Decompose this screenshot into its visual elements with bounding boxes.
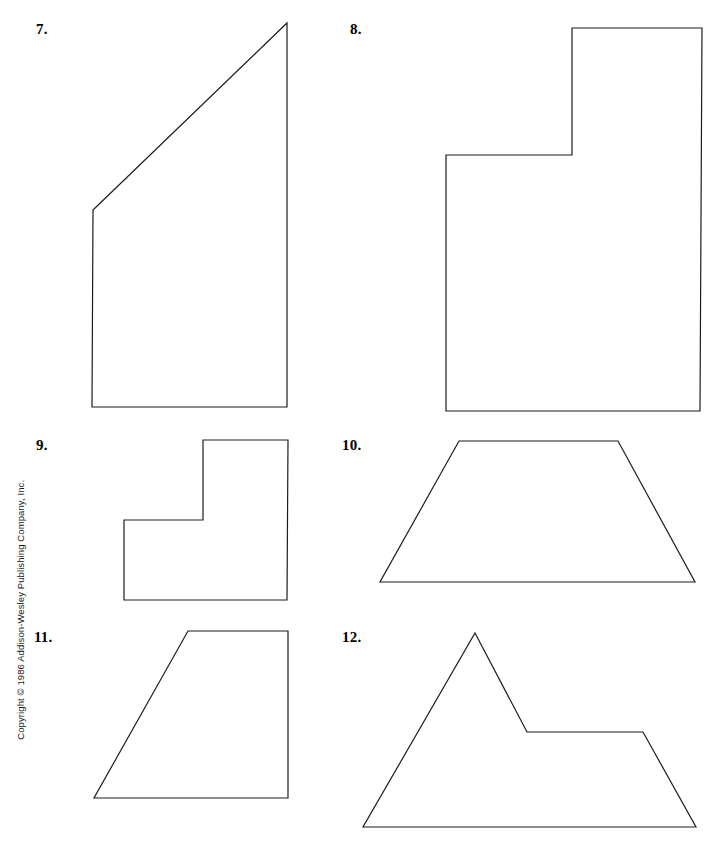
copyright-notice: Copyright © 1986 Addison-Wesley Publishi…: [16, 430, 26, 740]
figures-canvas: [0, 0, 713, 844]
figure-shape-10: [380, 441, 695, 582]
figure-number-9: 9.: [36, 438, 48, 453]
figure-shape-12: [363, 633, 696, 827]
figure-number-10: 10.: [342, 438, 361, 453]
figure-number-11: 11.: [34, 630, 53, 645]
worksheet-page: 7. 8. 9. 10. 11. 12. Copyright © 1986 Ad…: [0, 0, 713, 844]
figure-shape-7: [92, 23, 287, 407]
figure-shape-8: [446, 28, 702, 411]
figure-number-8: 8.: [350, 22, 362, 37]
figure-shape-11: [94, 631, 288, 798]
figure-number-7: 7.: [36, 22, 48, 37]
figure-number-12: 12.: [342, 630, 361, 645]
figure-shape-9: [124, 440, 288, 600]
